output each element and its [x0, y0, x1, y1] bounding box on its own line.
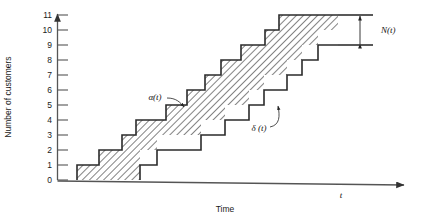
- queueing-cumulative-diagram: 0 1 2 3 4 5 6 7 8 9 10 11 t Time Number …: [0, 0, 422, 219]
- y-tick-5: 5: [47, 100, 52, 110]
- y-tick-2: 2: [47, 145, 52, 155]
- departure-annotation: δ (t): [252, 106, 280, 133]
- x-axis-symbol: t: [340, 190, 343, 200]
- y-tick-1: 1: [47, 160, 52, 170]
- x-axis: t: [58, 181, 405, 200]
- queue-length-dimension: N(t): [338, 15, 396, 45]
- arrival-label: α(t): [148, 92, 161, 102]
- y-tick-11: 11: [43, 10, 52, 20]
- y-tick-9: 9: [47, 40, 52, 50]
- y-tick-3: 3: [47, 130, 52, 140]
- y-tick-7: 7: [47, 70, 52, 80]
- y-axis-title: Number of customers: [3, 56, 13, 137]
- y-axis: 0 1 2 3 4 5 6 7 8 9 10 11: [43, 10, 68, 185]
- y-tick-8: 8: [47, 55, 52, 65]
- figure-canvas: 0 1 2 3 4 5 6 7 8 9 10 11 t Time Number …: [0, 0, 422, 219]
- y-tick-6: 6: [47, 85, 52, 95]
- count-label: N(t): [380, 25, 396, 35]
- y-tick-0: 0: [47, 175, 52, 185]
- y-tick-10: 10: [43, 25, 53, 35]
- departure-label: δ (t): [252, 123, 267, 133]
- y-axis-ticks: [58, 15, 69, 180]
- queue-shaded-region: [77, 15, 338, 180]
- x-axis-title: Time: [216, 204, 235, 214]
- y-tick-4: 4: [47, 115, 52, 125]
